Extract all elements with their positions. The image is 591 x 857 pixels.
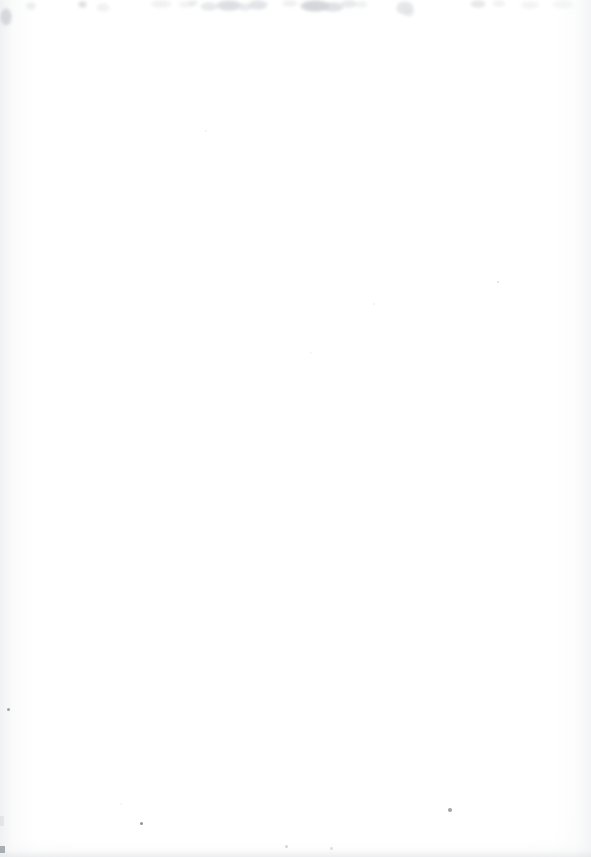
paper-surface [0, 0, 591, 857]
scanned-page [0, 0, 591, 857]
